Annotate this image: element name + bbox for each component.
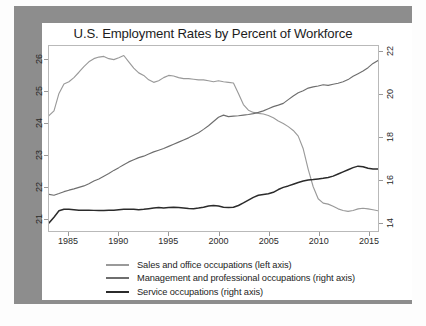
tickmark-left-23 bbox=[44, 155, 48, 156]
chart-legend: Sales and office occupations (left axis)… bbox=[106, 258, 386, 299]
x-tick-1990: 1990 bbox=[108, 236, 128, 246]
tickmark-left-25 bbox=[44, 91, 48, 92]
y-tick-right-14: 14 bbox=[385, 218, 395, 228]
line-sales bbox=[49, 55, 378, 211]
line-management bbox=[49, 60, 378, 195]
legend-swatch-service bbox=[106, 291, 129, 293]
line-service bbox=[49, 166, 378, 223]
legend-label-management: Management and professional occupations … bbox=[137, 273, 355, 283]
tickmark-bottom-1990 bbox=[118, 232, 119, 236]
y-tick-left-26: 26 bbox=[34, 54, 44, 64]
tickmark-bottom-2015 bbox=[369, 232, 370, 236]
y-tick-left-24: 24 bbox=[34, 118, 44, 128]
tickmark-right-22 bbox=[379, 51, 383, 52]
x-tick-1985: 1985 bbox=[58, 236, 78, 246]
tickmark-right-18 bbox=[379, 137, 383, 138]
tickmark-right-20 bbox=[379, 94, 383, 95]
x-tick-2005: 2005 bbox=[259, 236, 279, 246]
tickmark-left-26 bbox=[44, 59, 48, 60]
tickmark-left-21 bbox=[44, 219, 48, 220]
tickmark-left-22 bbox=[44, 187, 48, 188]
y-tick-right-18: 18 bbox=[385, 132, 395, 142]
tickmark-bottom-2000 bbox=[219, 232, 220, 236]
legend-label-service: Service occupations (right axis) bbox=[137, 287, 263, 297]
tickmark-bottom-2005 bbox=[269, 232, 270, 236]
legend-item-sales[interactable]: Sales and office occupations (left axis) bbox=[106, 258, 386, 272]
x-tick-1995: 1995 bbox=[158, 236, 178, 246]
plot-area bbox=[48, 45, 379, 232]
y-tick-left-23: 23 bbox=[34, 150, 44, 160]
legend-swatch-management bbox=[106, 277, 129, 279]
y-tick-right-22: 22 bbox=[385, 46, 395, 56]
y-tick-right-16: 16 bbox=[385, 175, 395, 185]
y-tick-left-25: 25 bbox=[34, 86, 44, 96]
tickmark-right-14 bbox=[379, 223, 383, 224]
y-tick-left-22: 22 bbox=[34, 182, 44, 192]
legend-item-service[interactable]: Service occupations (right axis) bbox=[106, 285, 386, 299]
scanned-page: U.S. Employment Rates by Percent of Work… bbox=[0, 0, 426, 326]
x-tick-2000: 2000 bbox=[208, 236, 228, 246]
legend-label-sales: Sales and office occupations (left axis) bbox=[137, 260, 291, 270]
plot-lines bbox=[49, 46, 378, 231]
chart-title: U.S. Employment Rates by Percent of Work… bbox=[28, 26, 398, 41]
tickmark-bottom-1985 bbox=[68, 232, 69, 236]
x-tick-2010: 2010 bbox=[309, 236, 329, 246]
tickmark-left-24 bbox=[44, 123, 48, 124]
y-tick-right-20: 20 bbox=[385, 89, 395, 99]
tickmark-right-16 bbox=[379, 180, 383, 181]
tickmark-bottom-1995 bbox=[168, 232, 169, 236]
y-tick-left-21: 21 bbox=[34, 214, 44, 224]
legend-swatch-sales bbox=[106, 264, 129, 266]
x-tick-2015: 2015 bbox=[359, 236, 379, 246]
legend-item-management[interactable]: Management and professional occupations … bbox=[106, 272, 386, 286]
tickmark-bottom-2010 bbox=[319, 232, 320, 236]
